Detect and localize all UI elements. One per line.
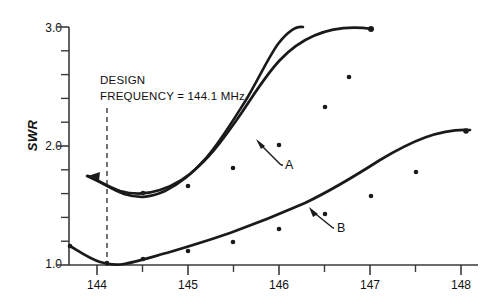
series-b-leader — [309, 207, 334, 228]
series-b-point — [231, 240, 236, 245]
series-a-point — [347, 75, 352, 80]
series-a-line — [88, 28, 372, 194]
x-axis-group — [69, 265, 478, 275]
series-a-point — [323, 105, 328, 110]
series-b-point — [277, 227, 282, 232]
series-a-curve-real — [88, 25, 372, 196]
series-b-point — [369, 194, 374, 199]
series-b-point — [186, 249, 191, 254]
series-a-point — [141, 191, 146, 196]
series-a-path-guide — [88, 25, 372, 196]
plot-canvas — [0, 0, 500, 305]
series-a-endpoint — [368, 26, 374, 32]
series-b-endpoint — [463, 128, 469, 134]
series-b — [68, 128, 470, 265]
series-b-point — [68, 244, 73, 249]
series-b-point — [105, 261, 110, 266]
y-axis-group — [57, 27, 69, 265]
series-a — [88, 26, 374, 195]
series-a-point — [277, 143, 282, 148]
series-b-point — [414, 170, 419, 175]
chart-figure: SWR 3.0 2.0 1.0 144 145 146 147 148 DESI… — [0, 0, 500, 305]
series-a-point — [186, 184, 191, 189]
series-b-point — [141, 257, 146, 262]
series-b-point — [323, 212, 328, 217]
series-b-line — [70, 130, 470, 265]
series-a-point — [231, 166, 236, 171]
